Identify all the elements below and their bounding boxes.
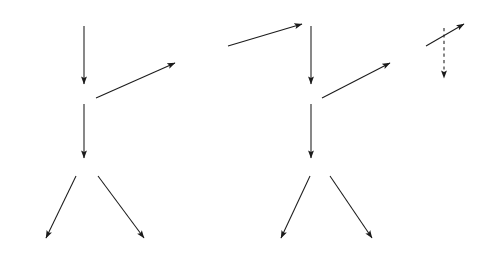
arrow-caugcp-to-caugc-oh bbox=[228, 24, 302, 46]
node-caugcu_ox bbox=[18, 88, 19, 101]
arrow-caugcu-inh-to-cu bbox=[46, 176, 76, 238]
arrow-caugcu-ox-to-caugcp bbox=[96, 63, 175, 98]
arrow-caugc-inh-to-gc bbox=[330, 176, 372, 238]
node-caugc_p bbox=[155, 50, 156, 63]
node-caugc_ox bbox=[265, 88, 266, 101]
node-caug_p bbox=[372, 50, 373, 62]
arrow-caugc-ox-to-caugp bbox=[322, 63, 390, 98]
node-caugc_oh bbox=[268, 10, 270, 24]
node-caug_oh bbox=[412, 10, 414, 24]
node-caugc_inh bbox=[264, 162, 265, 174]
arrow-caugcu-inh-to-u bbox=[98, 176, 144, 238]
arrow-caugc-inh-to-c bbox=[281, 176, 310, 238]
arrow-layer bbox=[0, 0, 478, 268]
reaction-pathway-diagram bbox=[0, 0, 478, 268]
arrow-caugp-to-caug-oh bbox=[426, 24, 464, 46]
node-caugcu_inh bbox=[18, 162, 19, 174]
node-caugcu_oh bbox=[22, 10, 24, 24]
